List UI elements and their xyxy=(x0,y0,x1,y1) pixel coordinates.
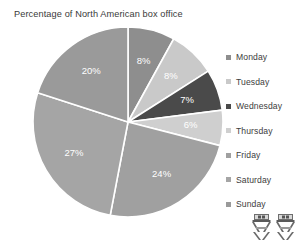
legend-swatch-icon xyxy=(226,55,231,60)
pie-slice-label: 8% xyxy=(137,55,151,66)
pie-slice-label: 7% xyxy=(180,94,194,105)
legend-item[interactable]: Thursday xyxy=(226,119,301,144)
pie-slice-label: 24% xyxy=(152,168,172,179)
legend-item[interactable]: Friday xyxy=(226,143,301,168)
legend-swatch-icon xyxy=(226,128,231,133)
legend-item-label: Thursday xyxy=(236,126,273,136)
legend-item[interactable]: Tuesday xyxy=(226,70,301,95)
director-chair-icon xyxy=(275,212,296,240)
legend-item-label: Monday xyxy=(236,52,267,62)
pie-slice-label: 6% xyxy=(184,119,198,130)
legend-item-label: Wednesday xyxy=(236,101,282,111)
legend-swatch-icon xyxy=(226,177,231,182)
chart-legend: MondayTuesdayWednesdayThursdayFridaySatu… xyxy=(226,45,301,217)
legend-item-label: Friday xyxy=(236,150,260,160)
legend-swatch-icon xyxy=(226,79,231,84)
legend-item[interactable]: Wednesday xyxy=(226,94,301,119)
legend-item[interactable]: Monday xyxy=(226,45,301,70)
legend-item-label: Sunday xyxy=(236,199,266,209)
director-chair-decoration xyxy=(251,212,297,242)
legend-swatch-icon xyxy=(226,202,231,207)
pie-slice-label: 27% xyxy=(65,147,85,158)
legend-item-label: Saturday xyxy=(236,175,271,185)
legend-item-label: Tuesday xyxy=(236,77,269,87)
legend-swatch-icon xyxy=(226,104,231,109)
legend-item[interactable]: Saturday xyxy=(226,168,301,193)
pie-slice-label: 8% xyxy=(164,70,178,81)
director-chair-icon xyxy=(251,212,272,240)
pie-chart-figure: Percentage of North American box office … xyxy=(0,0,301,248)
pie-slice-label: 20% xyxy=(82,65,102,76)
pie-plot-area: 8%8%7%6%24%27%20% xyxy=(0,0,225,248)
pie-svg: 8%8%7%6%24%27%20% xyxy=(0,0,225,248)
legend-swatch-icon xyxy=(226,153,231,158)
